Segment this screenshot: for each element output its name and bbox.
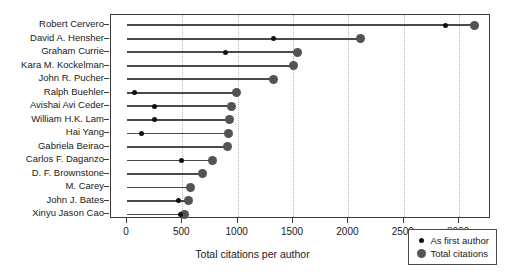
first-author-point xyxy=(223,50,228,55)
y-axis-tick xyxy=(104,51,109,52)
chart-row xyxy=(111,72,489,86)
total-citations-point xyxy=(223,142,232,151)
first-author-point xyxy=(178,212,183,217)
first-author-point xyxy=(152,117,157,122)
chart-row xyxy=(111,45,489,59)
plot-area xyxy=(110,14,490,218)
total-citations-point xyxy=(198,169,207,178)
chart-row xyxy=(111,140,489,154)
chart-row xyxy=(111,181,489,195)
stem-line xyxy=(127,38,361,40)
y-axis-category-labels: Robert CerveroDavid A. HensherGraham Cur… xyxy=(0,0,104,278)
y-axis-tick xyxy=(104,159,109,160)
stem-line xyxy=(127,146,227,148)
chart-row xyxy=(111,86,489,100)
first-author-point xyxy=(176,198,181,203)
x-axis-tick-label: 2000 xyxy=(336,226,358,237)
chart-row xyxy=(111,99,489,113)
y-axis-tick xyxy=(104,173,109,174)
stem-line xyxy=(127,24,474,26)
x-axis-tick-label: 1000 xyxy=(226,226,248,237)
stem-line xyxy=(127,160,213,162)
first-author-point xyxy=(443,23,448,28)
legend-item-as-first-author: As first author xyxy=(414,234,489,247)
first-author-point xyxy=(139,131,144,136)
stem-line xyxy=(127,105,231,107)
first-author-point xyxy=(152,104,157,109)
x-axis-tick xyxy=(403,218,404,223)
total-citations-point xyxy=(208,156,217,165)
y-axis-tick xyxy=(104,78,109,79)
total-citations-point xyxy=(293,48,302,57)
y-axis-tick xyxy=(104,186,109,187)
y-axis-label: M. Carey xyxy=(65,181,104,191)
x-axis-tick xyxy=(181,218,182,223)
stem-line xyxy=(127,187,190,189)
stem-line xyxy=(127,119,230,121)
large-gray-dot-icon xyxy=(414,249,428,258)
y-axis-label: Avishai Avi Ceder xyxy=(30,100,104,110)
y-axis-label: Robert Cervero xyxy=(39,19,104,29)
y-axis-label: William H.K. Lam xyxy=(31,114,104,124)
stem-line xyxy=(127,92,237,94)
y-axis-label: Gabriela Beirao xyxy=(38,141,104,151)
x-axis-tick-label: 500 xyxy=(173,226,190,237)
total-citations-point xyxy=(186,183,195,192)
y-axis-label: Hai Yang xyxy=(66,127,104,137)
total-citations-point xyxy=(356,34,365,43)
first-author-point xyxy=(179,158,184,163)
y-axis-tick xyxy=(104,38,109,39)
x-axis-tick xyxy=(126,218,127,223)
y-axis-tick xyxy=(104,92,109,93)
x-axis-tick-label: 1500 xyxy=(281,226,303,237)
y-axis-label: John J. Bates xyxy=(46,195,104,205)
stem-line xyxy=(127,78,273,80)
citations-lollipop-chart: Robert CerveroDavid A. HensherGraham Cur… xyxy=(0,0,505,278)
x-axis-tick xyxy=(347,218,348,223)
y-axis-label: Xinyu Jason Cao xyxy=(32,208,104,218)
legend-label-as-first-author: As first author xyxy=(428,235,489,246)
y-axis-label: Graham Currie xyxy=(41,46,104,56)
total-citations-point xyxy=(232,88,241,97)
y-axis-tick xyxy=(104,213,109,214)
chart-row xyxy=(111,18,489,32)
chart-row xyxy=(111,194,489,208)
chart-row xyxy=(111,59,489,73)
stem-line xyxy=(127,173,202,175)
y-axis-tick xyxy=(104,146,109,147)
x-axis-tick-label: 0 xyxy=(123,226,129,237)
y-axis-tick xyxy=(104,105,109,106)
first-author-point xyxy=(132,90,137,95)
small-black-dot-icon xyxy=(414,238,428,243)
y-axis-label: D. F. Brownstone xyxy=(32,168,104,178)
total-citations-point xyxy=(269,75,278,84)
chart-row xyxy=(111,127,489,141)
y-axis-label: David A. Hensher xyxy=(30,33,104,43)
x-axis-tick xyxy=(292,218,293,223)
y-axis-tick xyxy=(104,132,109,133)
stem-line xyxy=(127,214,185,216)
x-axis-tick xyxy=(237,218,238,223)
chart-row xyxy=(111,167,489,181)
legend-label-total-citations: Total citations xyxy=(428,248,488,259)
y-axis-label: John R. Pucher xyxy=(39,73,104,83)
chart-row xyxy=(111,154,489,168)
x-axis-tick xyxy=(458,218,459,223)
total-citations-point xyxy=(470,21,479,30)
total-citations-point xyxy=(225,115,234,124)
y-axis-tick xyxy=(104,65,109,66)
y-axis-label: Carlos F. Daganzo xyxy=(26,154,104,164)
stem-line xyxy=(127,51,297,53)
stem-line xyxy=(127,65,293,67)
y-axis-label: Ralph Buehler xyxy=(44,87,104,97)
y-axis-tick xyxy=(104,200,109,201)
total-citations-point xyxy=(289,61,298,70)
total-citations-point xyxy=(224,129,233,138)
y-axis-tick xyxy=(104,24,109,25)
first-author-point xyxy=(271,36,276,41)
total-citations-point xyxy=(184,196,193,205)
chart-row xyxy=(111,113,489,127)
y-axis-label: Kara M. Kockelman xyxy=(21,60,104,70)
chart-row xyxy=(111,208,489,222)
y-axis-tick xyxy=(104,119,109,120)
